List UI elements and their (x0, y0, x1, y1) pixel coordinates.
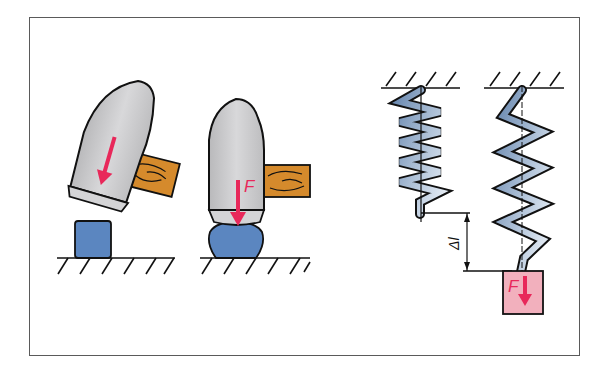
force-label: F (244, 177, 256, 196)
force-label: F (508, 277, 520, 296)
coil-spring (503, 90, 543, 272)
ground-hatch-icon (200, 258, 310, 274)
delta-l-label: Δl (446, 237, 462, 251)
spring-loaded: F (484, 72, 564, 314)
spring-unloaded (381, 72, 470, 222)
undeformed-block (75, 221, 111, 258)
hammer-handle (262, 165, 310, 197)
deformation-diagram: F Δl (0, 0, 604, 378)
hammer-after-impact: F (200, 99, 310, 274)
coil-spring (400, 90, 440, 214)
hammer-before-impact (57, 70, 180, 274)
ground-hatch-icon (57, 258, 175, 274)
deformed-block (209, 222, 263, 258)
